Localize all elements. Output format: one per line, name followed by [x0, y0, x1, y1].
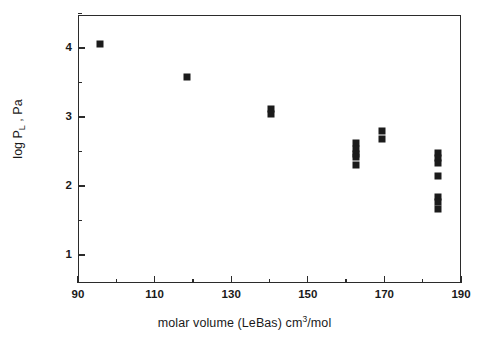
data-point — [352, 154, 359, 161]
y-tick-3 — [78, 116, 85, 117]
y-tick-2.5 — [78, 151, 82, 152]
data-point — [435, 205, 442, 212]
x-tick-label-130: 130 — [222, 289, 241, 301]
y-tick-label-1: 1 — [52, 249, 72, 261]
y-tick-label-3: 3 — [52, 111, 72, 123]
x-tick-label-170: 170 — [375, 289, 394, 301]
y-tick-2 — [78, 185, 85, 186]
x-tick-90 — [77, 276, 78, 283]
data-point — [379, 127, 386, 134]
x-tick-110 — [154, 276, 155, 283]
data-point — [184, 73, 191, 80]
x-tick-150 — [307, 276, 308, 283]
x-tick-170 — [384, 276, 385, 283]
x-tick-130 — [231, 276, 232, 283]
x-tick-190 — [460, 276, 461, 283]
data-point — [96, 40, 103, 47]
x-tick-label-190: 190 — [451, 289, 470, 301]
x-tick-180 — [422, 279, 423, 283]
data-point — [379, 136, 386, 143]
y-tick-4.5 — [78, 13, 82, 14]
data-point — [352, 161, 359, 168]
y-tick-1 — [78, 254, 85, 255]
x-axis-title: molar volume (LeBas) cm3/mol — [0, 316, 489, 330]
x-tick-120 — [192, 279, 193, 283]
y-axis-title: log PL , Pa — [11, 54, 25, 204]
y-axis-title-subscript: L — [17, 125, 27, 130]
x-tick-160 — [345, 279, 346, 283]
x-axis-title-superscript: 3 — [302, 314, 307, 324]
x-tick-label-110: 110 — [145, 289, 164, 301]
data-point — [435, 172, 442, 179]
y-tick-1.5 — [78, 220, 82, 221]
y-tick-3.5 — [78, 82, 82, 83]
x-tick-label-90: 90 — [72, 289, 85, 301]
y-tick-label-2: 2 — [52, 180, 72, 192]
y-axis-tick-labels: 1234 — [50, 0, 72, 348]
x-tick-140 — [269, 279, 270, 283]
y-tick-4 — [78, 47, 85, 48]
x-tick-label-150: 150 — [298, 289, 317, 301]
y-tick-label-4: 4 — [52, 42, 72, 54]
scatter-chart: 90110130150170190 1234 molar volume (LeB… — [0, 0, 489, 348]
data-point — [268, 111, 275, 118]
x-tick-100 — [116, 279, 117, 283]
data-point — [435, 160, 442, 167]
plot-area — [78, 15, 461, 283]
